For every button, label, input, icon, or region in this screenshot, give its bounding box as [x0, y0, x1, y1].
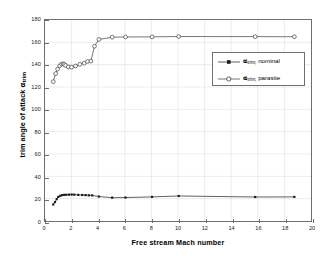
data-point-marker-square	[84, 194, 86, 196]
y-axis-label: trim angle of attack αtrim	[18, 13, 27, 216]
x-tick-mark	[259, 219, 260, 223]
x-tick-mark	[72, 219, 73, 223]
data-point-marker-square	[81, 194, 83, 196]
y-tick-label: 140	[31, 61, 41, 67]
x-tick-mark	[233, 219, 234, 223]
x-tick-label: 10	[175, 225, 181, 231]
data-point-marker-circle	[292, 35, 296, 39]
x-axis-label: Free stream Mach number	[44, 238, 312, 247]
x-tick-label: 18	[282, 225, 288, 231]
data-point-marker-square	[56, 198, 58, 200]
series-alpha_trim_nominal	[52, 193, 295, 205]
y-axis-label-alpha: α	[18, 82, 27, 87]
legend-suffix-parasite: parasite	[256, 74, 280, 81]
chart-legend: αtrim; nominal αtrim; parasite	[212, 52, 305, 86]
x-tick-mark	[206, 219, 207, 223]
legend-marker-filled-square-icon	[217, 57, 241, 67]
x-tick-mark	[152, 219, 153, 223]
data-point-marker-square	[98, 195, 100, 197]
y-tick-label: 160	[31, 39, 41, 45]
legend-label-nominal: αtrim; nominal	[243, 58, 280, 66]
y-axis-label-subscript: trim	[21, 72, 27, 83]
data-point-marker-square	[73, 194, 75, 196]
data-point-marker-square	[71, 193, 73, 195]
data-point-marker-square	[65, 194, 67, 196]
legend-item-nominal[interactable]: αtrim; nominal	[213, 53, 304, 70]
chart-figure: 020406080100120140160180 024681012141618…	[0, 0, 326, 261]
data-point-marker-square	[151, 196, 153, 198]
data-point-marker-circle	[74, 64, 78, 68]
x-tick-mark	[179, 219, 180, 223]
data-point-marker-circle	[110, 35, 114, 39]
data-point-marker-circle	[124, 35, 128, 39]
data-point-marker-square	[61, 194, 63, 196]
y-tick-label: 100	[31, 106, 41, 112]
data-point-marker-circle	[93, 44, 97, 48]
y-tick-label: 180	[31, 16, 41, 22]
x-tick-label: 4	[96, 225, 99, 231]
data-point-marker-circle	[177, 35, 181, 39]
data-point-marker-square	[68, 194, 70, 196]
y-tick-mark	[45, 110, 49, 111]
y-tick-label: 40	[35, 174, 41, 180]
y-tick-mark	[45, 200, 49, 201]
data-point-marker-circle	[78, 62, 82, 66]
data-point-marker-square	[57, 196, 59, 198]
x-tick-mark	[286, 219, 287, 223]
y-tick-label: 20	[35, 196, 41, 202]
y-tick-mark	[45, 65, 49, 66]
x-tick-label: 2	[69, 225, 72, 231]
x-axis-tick-labels: 02468101214161820	[44, 225, 312, 235]
y-tick-mark	[45, 20, 49, 21]
y-tick-label: 60	[35, 151, 41, 157]
data-point-marker-circle	[89, 59, 93, 63]
data-series-layer	[45, 20, 311, 221]
data-point-marker-circle	[51, 80, 55, 84]
data-point-marker-square	[178, 195, 180, 197]
data-point-marker-circle	[253, 35, 257, 39]
x-tick-label: 12	[202, 225, 208, 231]
y-tick-mark	[45, 88, 49, 89]
data-point-marker-square	[91, 194, 93, 196]
x-tick-label: 20	[309, 225, 315, 231]
legend-item-parasite[interactable]: αtrim; parasite	[213, 70, 304, 87]
y-tick-mark	[45, 178, 49, 179]
x-tick-mark	[99, 219, 100, 223]
y-tick-mark	[45, 155, 49, 156]
data-point-marker-square	[254, 196, 256, 198]
data-point-marker-square	[293, 196, 295, 198]
legend-suffix-nominal: nominal	[256, 57, 279, 64]
x-tick-label: 8	[150, 225, 153, 231]
x-tick-mark	[313, 219, 314, 223]
data-point-marker-square	[63, 194, 65, 196]
x-tick-mark	[125, 219, 126, 223]
legend-label-parasite: αtrim; parasite	[243, 75, 280, 83]
y-tick-mark	[45, 133, 49, 134]
x-tick-label: 0	[42, 225, 45, 231]
y-tick-mark	[45, 43, 49, 44]
data-point-marker-circle	[70, 65, 74, 69]
y-tick-label: 0	[38, 219, 41, 225]
y-tick-label: 80	[35, 129, 41, 135]
data-point-marker-square	[59, 195, 61, 197]
x-tick-label: 16	[255, 225, 261, 231]
x-tick-label: 6	[123, 225, 126, 231]
data-point-marker-circle	[97, 38, 101, 42]
data-point-marker-square	[88, 194, 90, 196]
y-tick-label: 120	[31, 84, 41, 90]
data-point-marker-square	[52, 203, 54, 205]
data-point-marker-circle	[54, 72, 58, 76]
data-point-marker-square	[124, 196, 126, 198]
data-point-marker-circle	[150, 35, 154, 39]
data-point-marker-square	[54, 201, 56, 203]
y-tick-mark	[45, 223, 49, 224]
legend-marker-open-circle-icon	[217, 74, 241, 84]
data-point-marker-square	[77, 194, 79, 196]
y-axis-label-text: trim angle of attack	[18, 87, 27, 157]
data-point-marker-square	[111, 197, 113, 199]
plot-area	[44, 19, 312, 222]
x-tick-label: 14	[228, 225, 234, 231]
